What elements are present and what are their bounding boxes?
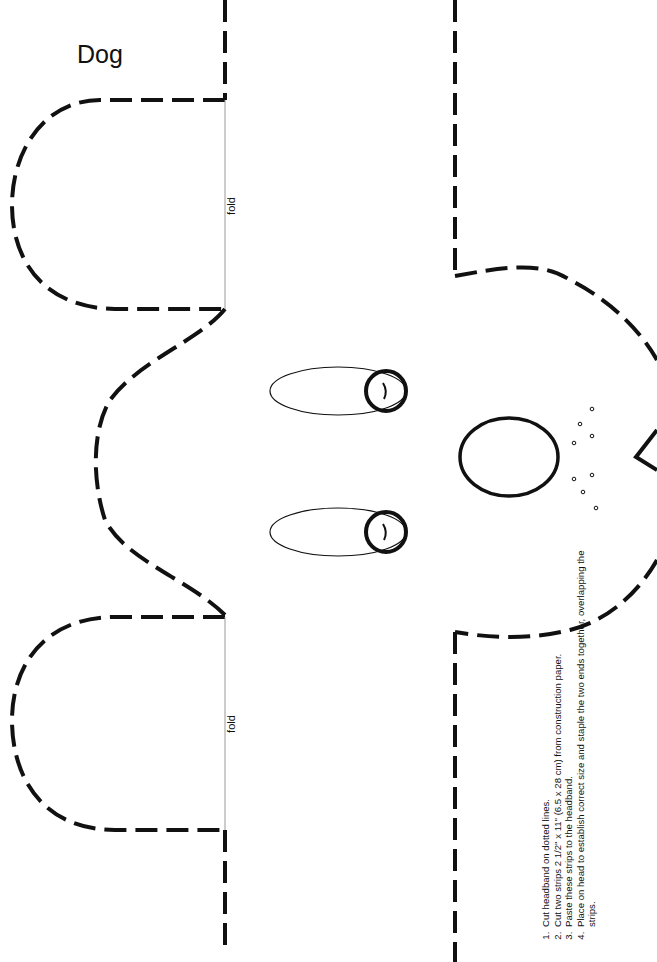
nose — [460, 418, 558, 496]
instruction-4: Place on head to establish correct size … — [575, 525, 598, 929]
template-title: Dog — [77, 40, 123, 69]
instruction-3: Paste these strips to the headband. — [563, 525, 575, 929]
cut-line-head-left — [96, 309, 225, 615]
fold-label-top: fold — [225, 197, 237, 215]
fold-label-bottom: fold — [225, 715, 237, 733]
cut-line-top-ear — [12, 100, 225, 309]
eye-bottom — [270, 508, 406, 556]
instructions: Cut headband on dotted lines. Cut two st… — [540, 525, 598, 945]
nose-notch — [636, 430, 657, 470]
instruction-2: Cut two strips 2 1/2" x 11" (6.5 x 28 cm… — [552, 525, 564, 929]
cut-line-bottom-ear — [12, 617, 225, 830]
whisker-dots — [572, 407, 598, 510]
eye-top — [270, 367, 406, 415]
cut-line-muzzle — [455, 267, 657, 360]
instruction-1: Cut headband on dotted lines. — [540, 525, 552, 929]
